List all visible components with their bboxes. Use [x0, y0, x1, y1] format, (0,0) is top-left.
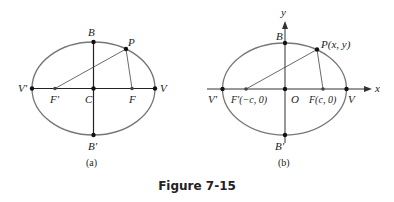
label-o-b: O — [291, 93, 299, 105]
label-f-a: F — [128, 93, 136, 105]
label-b-b: B — [276, 30, 283, 42]
label-v-prime-a: V' — [18, 82, 28, 94]
point-o-b — [283, 87, 287, 91]
label-v-a: V — [160, 82, 168, 94]
point-v-prime-a — [30, 86, 34, 90]
figure-caption: Figure 7-15 — [0, 179, 394, 193]
point-v-b — [344, 87, 348, 91]
label-b-a: B — [88, 26, 95, 38]
point-v-prime-b — [220, 87, 224, 91]
panel-label-a: (a) — [86, 157, 97, 169]
label-x-axis-b: x — [374, 82, 380, 94]
label-v-b: V — [348, 93, 356, 105]
panel-label-b: (b) — [278, 157, 290, 169]
point-f-b — [321, 87, 325, 91]
focal-radius-left-a — [55, 49, 126, 89]
point-f-a — [130, 87, 134, 91]
panel-a: V' F' C F V B B' P (a) — [18, 26, 168, 169]
x-axis-arrow-icon — [364, 86, 372, 92]
label-c-a: C — [85, 93, 93, 105]
point-f-prime-a — [53, 87, 57, 91]
label-y-axis-b: y — [280, 6, 286, 18]
label-f-b: F(c, 0) — [308, 94, 337, 106]
y-axis-arrow-icon — [282, 21, 288, 29]
point-p-b — [315, 47, 319, 51]
focal-radius-right-a — [126, 49, 132, 89]
focal-radius-left-b — [246, 50, 317, 90]
point-f-prime-b — [244, 87, 248, 91]
point-b-b — [283, 41, 287, 45]
focal-radius-right-b — [317, 50, 323, 90]
point-b-prime-a — [91, 133, 95, 137]
label-v-prime-b: V' — [208, 93, 218, 105]
label-p-a: P — [127, 36, 135, 48]
label-b-prime-b: B' — [275, 140, 285, 152]
panel-b: y x V' F'(−c, 0) O F(c, 0) V B B' P(x, y… — [207, 6, 380, 169]
label-p-b: P(x, y) — [320, 38, 351, 51]
figure-canvas: V' F' C F V B B' P (a) y x V' F'(−c, 0) … — [0, 0, 394, 202]
point-b-prime-b — [283, 133, 287, 137]
point-v-a — [153, 86, 157, 90]
label-f-prime-b: F'(−c, 0) — [230, 94, 268, 106]
label-f-prime-a: F' — [49, 93, 60, 105]
point-c-a — [91, 86, 95, 90]
point-b-a — [91, 40, 95, 44]
label-b-prime-a: B' — [88, 140, 98, 152]
